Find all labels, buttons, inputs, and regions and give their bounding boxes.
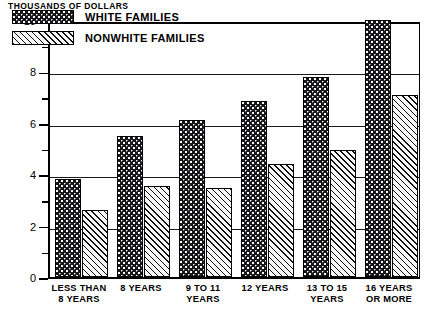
x-axis-label: 13 TO 15YEARS — [296, 283, 358, 304]
x-axis-label-line: OR MORE — [358, 294, 420, 305]
y-tick-label: 2 — [3, 222, 36, 233]
y-tick-major — [39, 124, 48, 126]
y-tick-label: 4 — [3, 170, 36, 181]
chart-legend: WHITE FAMILIES NONWHITE FAMILIES — [12, 8, 205, 50]
chart-root: THOUSANDS OF DOLLARS 0246810 WHITE FAMIL… — [0, 0, 435, 313]
x-axis-labels: LESS THAN8 YEARS8 YEARS9 TO 11YEARS12 YE… — [48, 281, 420, 313]
bar — [365, 20, 391, 277]
x-axis-label: 12 YEARS — [234, 283, 296, 294]
bar — [179, 120, 205, 277]
legend-item-nonwhite: NONWHITE FAMILIES — [12, 29, 205, 46]
bar — [392, 95, 418, 277]
y-tick-major — [39, 175, 48, 177]
bar — [268, 164, 294, 277]
bar — [117, 136, 143, 277]
bar — [55, 179, 81, 277]
x-axis-label-line: 9 TO 11 — [172, 283, 234, 294]
legend-label-white: WHITE FAMILIES — [85, 11, 179, 23]
legend-item-white: WHITE FAMILIES — [12, 8, 205, 25]
x-axis-label-line: 13 TO 15 — [296, 283, 358, 294]
bar — [206, 188, 232, 277]
legend-label-nonwhite: NONWHITE FAMILIES — [85, 32, 205, 44]
y-tick-label: 0 — [3, 273, 36, 284]
x-axis-label-line: 16 YEARS — [358, 283, 420, 294]
bar — [303, 77, 329, 277]
x-axis-label-line: 8 YEARS — [110, 283, 172, 294]
y-tick-minor — [42, 150, 48, 152]
bar — [330, 150, 356, 277]
legend-swatch-white-icon — [12, 10, 74, 24]
x-axis-label-line: LESS THAN — [48, 283, 110, 294]
x-axis-label: 16 YEARSOR MORE — [358, 283, 420, 304]
x-axis-label-line: 8 YEARS — [48, 294, 110, 305]
y-tick-minor — [42, 201, 48, 203]
y-tick-major — [39, 278, 48, 280]
x-axis-label-line: YEARS — [172, 294, 234, 305]
x-axis-label: 9 TO 11YEARS — [172, 283, 234, 304]
y-tick-label: 8 — [3, 67, 36, 78]
x-axis-label: LESS THAN8 YEARS — [48, 283, 110, 304]
plot-area — [48, 22, 420, 279]
x-axis-label-line: 12 YEARS — [234, 283, 296, 294]
y-tick-minor — [42, 253, 48, 255]
y-tick-minor — [42, 98, 48, 100]
y-tick-label: 6 — [3, 119, 36, 130]
y-tick-major — [39, 227, 48, 229]
x-axis-label-line: YEARS — [296, 294, 358, 305]
bar — [241, 101, 267, 277]
bar — [82, 210, 108, 277]
y-tick-major — [39, 73, 48, 75]
bar — [144, 186, 170, 277]
x-axis-label: 8 YEARS — [110, 283, 172, 294]
legend-swatch-nonwhite-icon — [12, 31, 74, 45]
